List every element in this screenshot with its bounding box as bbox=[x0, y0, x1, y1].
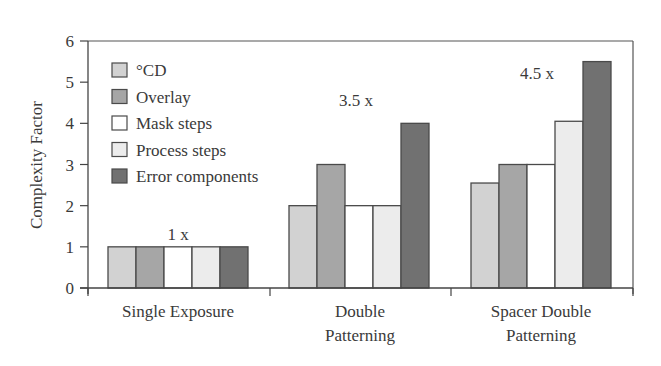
legend-swatch bbox=[112, 169, 127, 183]
complexity-factor-chart: 0123456 Single ExposureDoublePatterningS… bbox=[0, 0, 661, 366]
y-tick-label: 1 bbox=[66, 238, 75, 257]
bar-errorcomponents-2 bbox=[583, 62, 611, 288]
bar-overlay-2 bbox=[499, 165, 527, 289]
bar-processsteps-0 bbox=[192, 247, 220, 288]
bar-cd-0 bbox=[108, 247, 136, 288]
bar-overlay-0 bbox=[136, 247, 164, 288]
x-axis: Single ExposureDoublePatterningSpacer Do… bbox=[80, 288, 633, 345]
x-category-label: Patterning bbox=[325, 326, 395, 345]
multiplier-annotation: 1 x bbox=[167, 225, 189, 244]
y-tick-label: 3 bbox=[66, 156, 75, 175]
bar-cd-1 bbox=[289, 206, 317, 288]
y-axis: 0123456 bbox=[66, 32, 89, 298]
legend-swatch bbox=[112, 143, 127, 157]
bar-cd-2 bbox=[471, 183, 499, 288]
y-tick-label: 2 bbox=[66, 197, 75, 216]
legend-label: Error components bbox=[136, 167, 258, 186]
bar-masksteps-0 bbox=[164, 247, 192, 288]
bar-overlay-1 bbox=[317, 165, 345, 289]
bar-processsteps-2 bbox=[555, 121, 583, 288]
legend-swatch bbox=[112, 116, 127, 130]
legend-label: Mask steps bbox=[136, 114, 212, 133]
bar-processsteps-1 bbox=[373, 206, 401, 288]
legend-label: Overlay bbox=[136, 88, 191, 107]
x-category-label: Double bbox=[335, 302, 385, 321]
y-tick-label: 0 bbox=[66, 279, 75, 298]
x-category-label: Spacer Double bbox=[491, 302, 592, 321]
y-tick-label: 5 bbox=[66, 73, 75, 92]
bar-masksteps-1 bbox=[345, 206, 373, 288]
bar-errorcomponents-0 bbox=[220, 247, 248, 288]
y-tick-label: 6 bbox=[66, 32, 75, 51]
bar-errorcomponents-1 bbox=[401, 123, 429, 288]
legend-label: Process steps bbox=[136, 141, 226, 160]
multiplier-annotation: 4.5 x bbox=[520, 64, 555, 83]
legend-label: °CD bbox=[136, 61, 166, 80]
legend-swatch bbox=[112, 90, 127, 104]
x-category-label: Single Exposure bbox=[122, 302, 234, 321]
y-tick-label: 4 bbox=[66, 114, 75, 133]
multiplier-annotation: 3.5 x bbox=[339, 91, 374, 110]
legend-swatch bbox=[112, 63, 127, 77]
bar-masksteps-2 bbox=[527, 165, 555, 289]
y-axis-label: Complexity Factor bbox=[27, 101, 46, 229]
legend: °CDOverlayMask stepsProcess stepsError c… bbox=[112, 61, 258, 186]
x-category-label: Patterning bbox=[506, 326, 576, 345]
